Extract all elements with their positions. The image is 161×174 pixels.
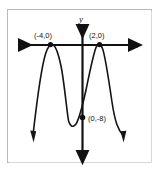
x-axis-label: x [133,40,138,50]
curve-right-arrowhead [120,131,126,143]
label-left-root: (-4,0) [34,31,52,40]
curve-left-arrowhead [30,131,36,143]
graph-canvas: (-4,0) (2,0) (0,-8) x y [0,0,161,174]
y-axis-label: y [78,14,83,24]
point-y-intercept-dot [80,115,86,121]
point-right-root-dot [97,42,102,47]
label-right-root: (2,0) [89,31,105,40]
figure-root: (-4,0) (2,0) (0,-8) x y [0,0,161,174]
quartic-curve [33,44,124,136]
label-y-intercept: (0,-8) [88,114,106,123]
point-left-root-dot [48,42,53,47]
